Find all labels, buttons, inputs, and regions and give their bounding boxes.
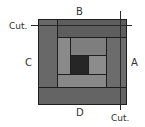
strip-c-left-outer (38, 19, 58, 88)
label-c: C (25, 58, 32, 68)
cut-line-horizontal (31, 25, 132, 26)
strip-inner-right (88, 55, 107, 75)
label-cut-top: Cut. (9, 21, 27, 31)
label-b: B (76, 7, 83, 17)
strip-b-top-outer (57, 19, 127, 38)
label-a: A (131, 58, 138, 68)
strip-inner-left (57, 37, 71, 75)
strip-a-right-outer (106, 37, 127, 88)
strip-d-bottom-outer (38, 87, 127, 105)
label-cut-bottom: Cut. (111, 113, 129, 123)
cut-line-vertical (120, 11, 121, 110)
strip-inner-top (70, 37, 107, 56)
center-square (70, 55, 89, 75)
strip-inner-bottom (57, 74, 107, 88)
label-d: D (76, 108, 84, 118)
